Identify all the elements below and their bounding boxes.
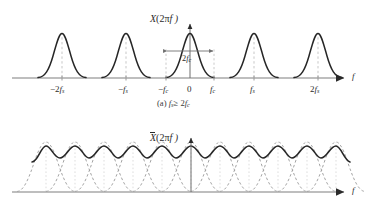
panel-b-axis-label-f: f xyxy=(352,186,355,195)
panel-a-axis-label-f: f xyxy=(352,72,355,81)
bandwidth-label-2fc: 2fc xyxy=(182,55,191,63)
tick-label-zero: 0 xyxy=(187,85,192,94)
panel-a-function-label: X(2πf ) xyxy=(150,14,178,24)
panel-b-plot xyxy=(0,120,377,206)
tick-label-minus-2fs: −2fs xyxy=(50,85,65,94)
figure-root: X(2πf ) f 2fc −2fs −fs −fc 0 fc fs 2fs (… xyxy=(0,0,377,206)
panel-a-caption: (a) fs≥ 2fc xyxy=(157,99,190,108)
panel-b-function-label: X(2πf ) xyxy=(150,133,178,143)
tick-label-minus-fc: −fc xyxy=(158,85,168,94)
tick-label-plus-fs: fs xyxy=(250,85,255,94)
tick-label-minus-fs: −fs xyxy=(118,85,128,94)
tick-label-plus-2fs: 2fs xyxy=(310,85,319,94)
tick-label-plus-fc: fc xyxy=(210,85,215,94)
